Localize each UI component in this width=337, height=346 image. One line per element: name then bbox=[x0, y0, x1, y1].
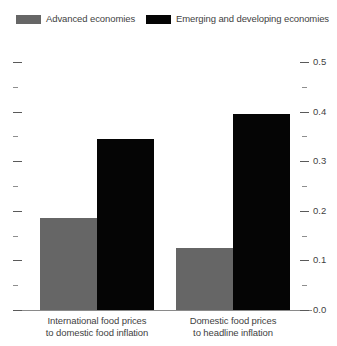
category-label-0: International food pricesto domestic foo… bbox=[22, 315, 172, 338]
category-label-line: to headline inflation bbox=[158, 327, 308, 339]
category-label-line: Domestic food prices bbox=[158, 315, 308, 327]
axis-tick-left-0.2 bbox=[13, 211, 22, 212]
axis-tick-right-0.35 bbox=[302, 136, 307, 137]
axis-tick-right-0.1 bbox=[300, 260, 309, 261]
axis-tick-right-0.3 bbox=[300, 161, 309, 162]
category-label-1: Domestic food pricesto headline inflatio… bbox=[158, 315, 308, 338]
axis-tick-left-0.3 bbox=[13, 161, 22, 162]
axis-tick-left-0.35 bbox=[13, 136, 18, 137]
axis-tick-right-0 bbox=[300, 310, 309, 311]
axis-tick-left-0.05 bbox=[13, 285, 18, 286]
bar-group-0-series-0 bbox=[40, 218, 97, 310]
bar-chart: Advanced economies Emerging and developi… bbox=[0, 0, 337, 346]
axis-tick-right-0.2 bbox=[300, 211, 309, 212]
category-label-line: to domestic food inflation bbox=[22, 327, 172, 339]
axis-tick-left-0.5 bbox=[13, 62, 22, 63]
axis-tick-right-0.45 bbox=[302, 87, 307, 88]
bar-group-1-series-0 bbox=[176, 248, 233, 310]
axis-tick-left-0.1 bbox=[13, 260, 22, 261]
plot-area: 0.00.10.20.30.40.5 International food pr… bbox=[0, 0, 337, 346]
axis-tick-left-0.45 bbox=[13, 87, 18, 88]
axis-tick-right-0.5 bbox=[300, 62, 309, 63]
y-tick-label-0.3: 0.3 bbox=[313, 156, 326, 166]
axis-tick-right-0.15 bbox=[302, 236, 307, 237]
axis-tick-right-0.25 bbox=[302, 186, 307, 187]
bar-group-0-series-1 bbox=[97, 139, 154, 310]
y-tick-label-0.1: 0.1 bbox=[313, 255, 326, 265]
axis-tick-left-0.15 bbox=[13, 236, 18, 237]
axis-tick-right-0.05 bbox=[302, 285, 307, 286]
axis-tick-right-0.4 bbox=[300, 112, 309, 113]
axis-tick-left-0.25 bbox=[13, 186, 18, 187]
bar-group-1-series-1 bbox=[233, 114, 290, 310]
y-tick-label-0.2: 0.2 bbox=[313, 206, 326, 216]
x-axis-line bbox=[18, 310, 312, 311]
y-tick-label-0.5: 0.5 bbox=[313, 57, 326, 67]
axis-tick-left-0.4 bbox=[13, 112, 22, 113]
category-label-line: International food prices bbox=[22, 315, 172, 327]
y-tick-label-0.0: 0.0 bbox=[313, 305, 326, 315]
y-tick-label-0.4: 0.4 bbox=[313, 107, 326, 117]
axis-tick-left-0 bbox=[13, 310, 22, 311]
